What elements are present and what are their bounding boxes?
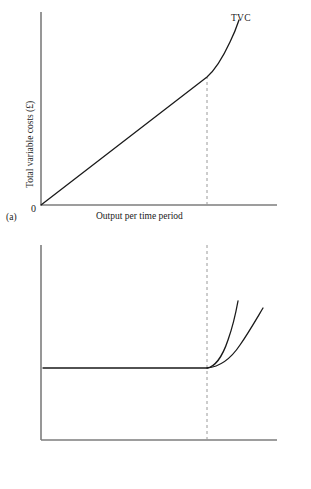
mc-curve — [43, 301, 238, 368]
panel-b-average-marginal-costs: Average variable costs, marginal costs (… — [0, 240, 311, 489]
panel-a-x-axis-title: Output per time period — [96, 212, 183, 222]
panel-b-plot — [0, 240, 311, 489]
panel-a-letter: (a) — [6, 212, 17, 222]
tvc-curve — [41, 20, 239, 205]
tvc-curve-label: TVC — [231, 14, 251, 24]
panel-a-y-axis-title: Total variable costs (£) — [25, 101, 35, 188]
panel-a-plot — [0, 0, 311, 240]
panel-a-origin-label: 0 — [31, 203, 36, 214]
cost-curves-figure: Total variable costs (£) 0 Output per ti… — [0, 0, 311, 489]
panel-a-total-variable-costs: Total variable costs (£) 0 Output per ti… — [0, 0, 311, 240]
